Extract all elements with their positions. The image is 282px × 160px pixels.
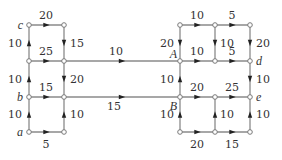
arrowhead-icon [213, 40, 217, 46]
arrowhead-icon [119, 59, 125, 63]
node-label-B: B [170, 99, 178, 113]
node-n18 [178, 130, 183, 135]
node-n10 [213, 23, 218, 28]
node-label-A: A [169, 47, 178, 61]
edge-weight-label: 15 [107, 100, 121, 113]
node-n6 [62, 95, 67, 100]
arrowhead-icon [178, 76, 182, 82]
edge-weight-label: 10 [220, 108, 234, 121]
node-b [27, 95, 32, 100]
edge-weight-label: 15 [225, 138, 239, 151]
edge-weight-label: 10 [8, 73, 22, 86]
node-label-d: d [256, 54, 263, 68]
network-diagram: 2010152510102015151010510520102010510102… [0, 0, 282, 160]
node-A [178, 59, 183, 64]
node-n13 [213, 59, 218, 64]
nodes-layer [27, 23, 253, 135]
arrowhead-icon [194, 95, 200, 99]
edge-weight-label: 25 [225, 81, 239, 94]
arrowhead-icon [27, 111, 31, 117]
edge-weight-label: 10 [256, 73, 270, 86]
arrowhead-icon [229, 23, 235, 27]
arrowhead-icon [27, 40, 31, 46]
arrowhead-icon [43, 59, 49, 63]
node-c [27, 23, 32, 28]
edge-weight-label: 25 [39, 45, 53, 58]
edge-weight-label: 15 [39, 81, 53, 94]
edge-weight-label: 10 [109, 45, 123, 58]
edge-weight-label: 5 [229, 9, 236, 22]
node-n11 [248, 23, 253, 28]
node-n20 [248, 130, 253, 135]
arrowhead-icon [229, 130, 235, 134]
node-B [178, 95, 183, 100]
arrowhead-icon [194, 130, 200, 134]
edge-weight-label: 20 [256, 37, 270, 50]
edges-layer [29, 25, 250, 132]
edge-weight-label: 5 [229, 45, 236, 58]
node-n3 [27, 59, 32, 64]
edge-weight-label: 10 [160, 73, 174, 86]
node-n9 [178, 23, 183, 28]
edge-weight-label: 20 [39, 9, 53, 22]
node-n16 [213, 95, 218, 100]
arrowhead-icon [119, 95, 125, 99]
arrowhead-icon [62, 111, 66, 117]
arrowhead-icon [178, 40, 182, 46]
arrowhead-icon [62, 40, 66, 46]
node-n19 [213, 130, 218, 135]
edge-weight-label: 10 [190, 9, 204, 22]
arrowhead-icon [248, 76, 252, 82]
arrowhead-icon [229, 59, 235, 63]
arrowhead-icon [62, 76, 66, 82]
arrowhead-icon [248, 111, 252, 117]
arrowhead-icon [178, 111, 182, 117]
edge-weight-label: 20 [190, 138, 204, 151]
arrowhead-icon [43, 130, 49, 134]
labels-layer: 2010152510102015151010510520102010510102… [8, 9, 270, 151]
edge-weight-label: 20 [190, 81, 204, 94]
node-n2 [62, 23, 67, 28]
node-n4 [62, 59, 67, 64]
edge-weight-label: 10 [8, 37, 22, 50]
node-label-c: c [18, 18, 24, 32]
edge-weight-label: 10 [8, 108, 22, 121]
arrowhead-icon [43, 23, 49, 27]
arrowhead-icon [213, 111, 217, 117]
edge-weight-label: 15 [70, 37, 84, 50]
node-label-b: b [17, 90, 23, 104]
arrows-layer [27, 23, 252, 134]
arrowhead-icon [194, 23, 200, 27]
arrowhead-icon [229, 95, 235, 99]
node-a [27, 130, 32, 135]
arrowhead-icon [27, 76, 31, 82]
edge-weight-label: 10 [190, 45, 204, 58]
arrowhead-icon [248, 40, 252, 46]
arrowhead-icon [194, 59, 200, 63]
edge-weight-label: 10 [256, 108, 270, 121]
node-d [248, 59, 253, 64]
node-n8 [62, 130, 67, 135]
node-e [248, 95, 253, 100]
node-label-e: e [256, 90, 262, 104]
node-label-a: a [17, 125, 23, 139]
edge-weight-label: 5 [43, 138, 50, 151]
arrowhead-icon [43, 95, 49, 99]
edge-weight-label: 10 [70, 108, 84, 121]
edge-weight-label: 20 [70, 73, 84, 86]
